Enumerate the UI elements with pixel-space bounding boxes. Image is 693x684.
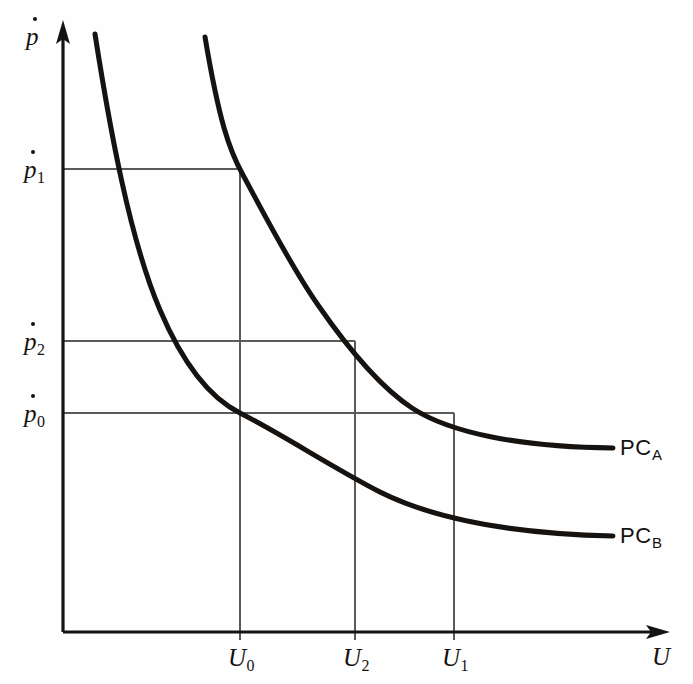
y-tick-base-p2: p xyxy=(24,329,37,354)
curve-label-PCA: PCA xyxy=(620,437,663,462)
curve-label-PCA-sub: A xyxy=(652,446,663,463)
x-tick-base-U1: U xyxy=(442,644,460,671)
y-tick-label-p2: p2 xyxy=(24,329,45,358)
x-tick-base-U0: U xyxy=(228,644,246,671)
curve-PCA xyxy=(205,37,613,448)
y-axis-label: p xyxy=(26,24,39,49)
y-tick-label-p0: p0 xyxy=(24,401,45,430)
overdot-icon xyxy=(31,150,35,154)
y-axis-label-text: p xyxy=(26,24,39,49)
x-tick-sub-U1: 1 xyxy=(461,657,469,674)
vertical-guide-lines xyxy=(240,169,454,640)
plot-canvas xyxy=(0,0,693,684)
y-tick-sub-p2: 2 xyxy=(37,341,45,358)
x-tick-sub-U2: 2 xyxy=(362,657,370,674)
y-tick-sub-p1: 1 xyxy=(37,169,45,186)
x-tick-label-U1: U1 xyxy=(442,645,469,674)
y-tick-sub-p0: 0 xyxy=(37,413,45,430)
x-tick-sub-U0: 0 xyxy=(247,657,255,674)
curve-label-PCB-base: PC xyxy=(620,523,652,548)
x-tick-label-U0: U0 xyxy=(228,645,255,674)
y-tick-label-p1: p1 xyxy=(24,157,45,186)
curve-label-PCB-sub: B xyxy=(652,534,663,551)
curve-label-PCB: PCB xyxy=(620,525,663,550)
overdot-icon xyxy=(31,322,35,326)
overdot-icon xyxy=(31,394,35,398)
curve-label-PCA-base: PC xyxy=(620,435,652,460)
x-axis-label: U xyxy=(652,644,670,669)
curve-PCB xyxy=(95,34,613,536)
y-tick-base-p1: p xyxy=(24,157,37,182)
overdot-icon xyxy=(33,17,37,21)
x-tick-base-U2: U xyxy=(343,644,361,671)
x-tick-label-U2: U2 xyxy=(343,645,370,674)
phillips-curve-figure: p U p1 p2 p0 U0 U2 U1 PCA PCB xyxy=(0,0,693,684)
y-tick-base-p0: p xyxy=(24,401,37,426)
axis-lines xyxy=(63,30,660,632)
x-axis-label-text: U xyxy=(652,643,670,670)
